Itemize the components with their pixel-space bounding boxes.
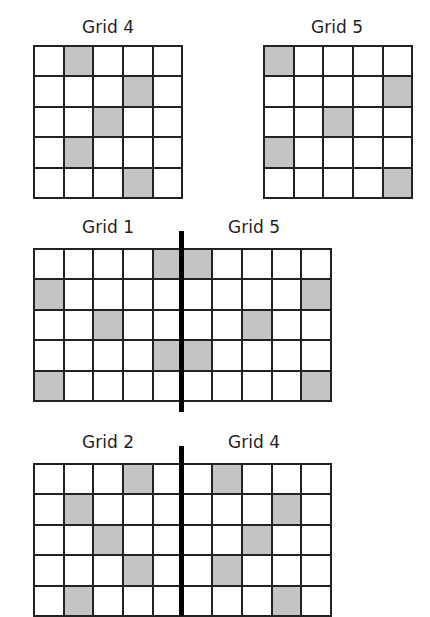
grid-cell	[65, 77, 95, 107]
grid-cell	[35, 311, 65, 341]
grid-2-label: Grid 2	[48, 432, 168, 452]
grid-cell	[124, 587, 154, 617]
grid-cell	[65, 250, 95, 280]
grid-cell	[94, 138, 124, 168]
grid-cell	[295, 138, 325, 168]
shaded-cell	[94, 108, 124, 138]
grid-cell	[94, 556, 124, 586]
grid-cell	[65, 169, 95, 199]
grid-cell	[65, 465, 95, 495]
grid-cell	[94, 465, 124, 495]
grid-cell	[124, 526, 154, 556]
grid-cell	[384, 108, 414, 138]
shaded-cell	[65, 495, 95, 525]
grid-5-combined-label: Grid 5	[194, 217, 314, 237]
shaded-cell	[183, 341, 213, 371]
grid-cell	[265, 77, 295, 107]
shaded-cell	[302, 280, 332, 310]
grid-cell	[213, 526, 243, 556]
grid-cell	[94, 495, 124, 525]
shaded-cell	[124, 77, 154, 107]
grid-cell	[154, 169, 184, 199]
shaded-cell	[265, 138, 295, 168]
shaded-cell	[213, 556, 243, 586]
grid-cell	[183, 372, 213, 402]
shaded-cell	[94, 526, 124, 556]
grid-cell	[354, 47, 384, 77]
grid-cell	[243, 465, 273, 495]
shaded-cell	[213, 465, 243, 495]
grid-cell	[273, 341, 303, 371]
grid-cell	[65, 341, 95, 371]
shaded-cell	[243, 526, 273, 556]
grid-cell	[213, 495, 243, 525]
grid-cell	[94, 341, 124, 371]
grid-cell	[273, 556, 303, 586]
grid-cell	[302, 341, 332, 371]
grid-cell	[243, 556, 273, 586]
grid-cell	[243, 495, 273, 525]
grid-cell	[243, 587, 273, 617]
grid-cell	[354, 169, 384, 199]
grid-cell	[124, 372, 154, 402]
shaded-cell	[273, 587, 303, 617]
divider-line	[179, 231, 184, 412]
grid-cell	[35, 47, 65, 77]
grid-4	[33, 45, 183, 199]
grid-cell	[124, 280, 154, 310]
grid-cell	[124, 341, 154, 371]
grid-cell	[302, 587, 332, 617]
grid-cell	[65, 311, 95, 341]
grid-cell	[35, 138, 65, 168]
grid-cell	[354, 77, 384, 107]
grid-cell	[94, 47, 124, 77]
grid-4-label: Grid 4	[48, 17, 168, 37]
grid-cell	[35, 495, 65, 525]
grid-cell	[94, 280, 124, 310]
grid-cell	[384, 47, 414, 77]
grid-cell	[273, 526, 303, 556]
shaded-cell	[124, 169, 154, 199]
grid-cell	[273, 311, 303, 341]
grid-cell	[273, 280, 303, 310]
grid-cell	[94, 250, 124, 280]
grid-cell	[213, 587, 243, 617]
grid-cell	[384, 138, 414, 168]
shaded-cell	[384, 77, 414, 107]
grid-cell	[213, 341, 243, 371]
grid-cell	[124, 108, 154, 138]
shaded-cell	[124, 465, 154, 495]
grid-cell	[65, 108, 95, 138]
grid-cell	[213, 250, 243, 280]
grid-cell	[302, 556, 332, 586]
grid-cell	[354, 138, 384, 168]
grid-4-combined-label: Grid 4	[194, 432, 314, 452]
grid-cell	[295, 169, 325, 199]
grid-cell	[35, 108, 65, 138]
grid-cell	[265, 108, 295, 138]
shaded-cell	[35, 372, 65, 402]
grid-cell	[124, 495, 154, 525]
grid-cell	[154, 108, 184, 138]
shaded-cell	[65, 47, 95, 77]
grid-cell	[302, 465, 332, 495]
shaded-cell	[35, 280, 65, 310]
grid-cell	[324, 169, 354, 199]
grid-cell	[124, 138, 154, 168]
grid-cell	[124, 47, 154, 77]
grid-cell	[35, 169, 65, 199]
grid-cell	[35, 341, 65, 371]
grid-cell	[273, 372, 303, 402]
grid-cell	[35, 250, 65, 280]
shaded-cell	[384, 169, 414, 199]
grid-cell	[94, 77, 124, 107]
grid-cell	[94, 587, 124, 617]
grid-cell	[295, 108, 325, 138]
grid-cell	[302, 495, 332, 525]
grid-cell	[243, 280, 273, 310]
grid-cell	[213, 372, 243, 402]
grid-cell	[124, 311, 154, 341]
shaded-cell	[124, 556, 154, 586]
shaded-cell	[273, 495, 303, 525]
shaded-cell	[94, 311, 124, 341]
